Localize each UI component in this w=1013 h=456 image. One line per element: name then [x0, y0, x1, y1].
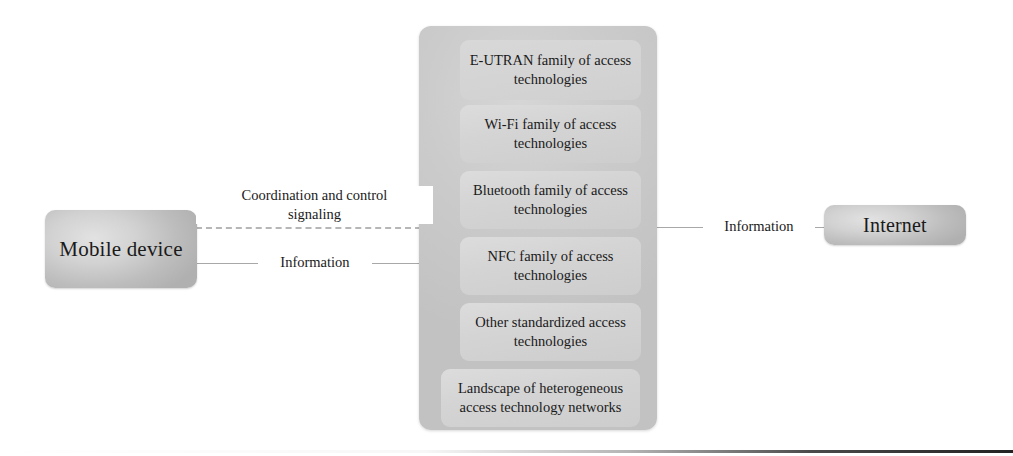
tech-box-nfc-label: NFC family of access technologies	[460, 247, 641, 284]
tech-box-e-utran-label: E-UTRAN family of access technologies	[460, 51, 641, 88]
bottom-divider-rule	[0, 450, 1013, 453]
edge-label-information-right: Information	[703, 217, 815, 236]
tech-box-nfc[interactable]: NFC family of access technologies	[460, 237, 641, 295]
connector-coordination-signaling-dashed	[196, 227, 421, 229]
node-mobile-device-label: Mobile device	[59, 237, 182, 262]
tech-box-bluetooth-label: Bluetooth family of access technologies	[460, 181, 641, 218]
node-mobile-device[interactable]: Mobile device	[45, 210, 197, 288]
tech-box-landscape[interactable]: Landscape of heterogeneous access techno…	[441, 369, 640, 427]
tech-box-landscape-label: Landscape of heterogeneous access techno…	[441, 379, 640, 416]
tech-box-bluetooth[interactable]: Bluetooth family of access technologies	[460, 171, 641, 229]
access-technology-container[interactable]: E-UTRAN family of access technologies Wi…	[419, 26, 657, 430]
tech-box-e-utran[interactable]: E-UTRAN family of access technologies	[460, 40, 641, 100]
tech-box-wifi-label: Wi-Fi family of access technologies	[460, 115, 641, 152]
tech-box-other-standardized-label: Other standardized access technologies	[460, 313, 641, 350]
tech-box-wifi[interactable]: Wi-Fi family of access technologies	[460, 105, 641, 163]
edge-label-information-left: Information	[258, 253, 372, 272]
edge-label-coordination-signaling: Coordination and control signaling	[196, 186, 433, 224]
node-internet-label: Internet	[863, 214, 927, 237]
node-internet[interactable]: Internet	[824, 205, 966, 245]
tech-box-other-standardized[interactable]: Other standardized access technologies	[460, 303, 641, 361]
diagram-canvas: Mobile device Internet E-UTRAN family of…	[0, 0, 1013, 456]
